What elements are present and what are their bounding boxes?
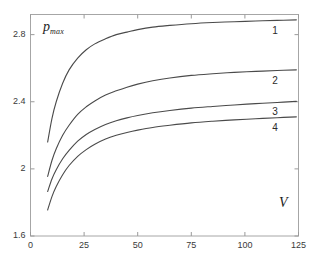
plot-frame: [31, 15, 299, 237]
y-tick-label: 2.8: [0, 30, 26, 39]
curve-label-3: 3: [272, 107, 278, 117]
x-tick-label: 100: [225, 241, 265, 250]
curve-label-4: 4: [272, 123, 278, 133]
plot-canvas: [0, 0, 324, 269]
curve-label-1: 1: [272, 26, 278, 36]
x-tick-label: 125: [279, 241, 319, 250]
y-tick-label: 2: [0, 164, 26, 173]
x-tick-label: 50: [118, 241, 158, 250]
y-tick-label: 2.4: [0, 97, 26, 106]
y-axis-label: pmax: [43, 20, 64, 36]
y-axis-label-base: p: [43, 19, 50, 34]
x-axis-label: V: [279, 196, 288, 210]
curve-label-2: 2: [272, 76, 278, 86]
y-tick-label: 1.6: [0, 231, 26, 240]
x-tick-label: 0: [11, 241, 51, 250]
chart-figure: pmax V 02550751001251.622.42.8 1234: [0, 0, 324, 269]
y-axis-label-subscript: max: [50, 27, 64, 36]
x-tick-label: 25: [64, 241, 104, 250]
x-tick-label: 75: [171, 241, 211, 250]
